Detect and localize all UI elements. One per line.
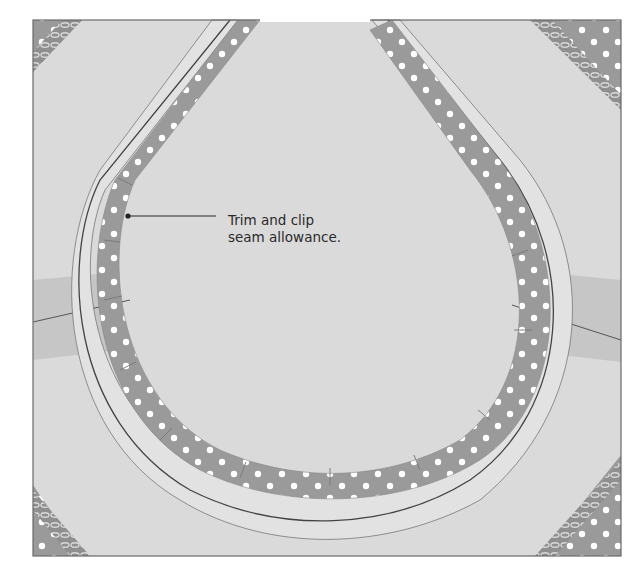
- neckline-diagram: [0, 0, 626, 563]
- callout-line-1: Trim and clip: [228, 212, 341, 229]
- callout-line-2: seam allowance.: [228, 229, 341, 246]
- callout-trim-and-clip: Trim and clip seam allowance.: [228, 212, 341, 246]
